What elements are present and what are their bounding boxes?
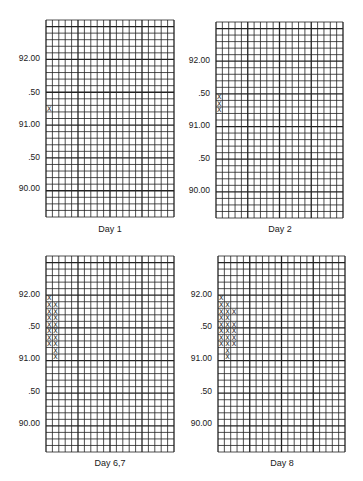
x-mark-icon: X: [219, 340, 224, 348]
x-mark-icon: X: [225, 353, 230, 361]
grid-0: X: [46, 20, 174, 217]
x-mark-icon: X: [47, 105, 52, 113]
x-mark-icon: X: [232, 308, 237, 316]
x-mark-icon: X: [217, 106, 222, 114]
grid-3: XXXXXXXXXXXXXXXXXXXXXX: [218, 256, 345, 452]
x-mark-icon: X: [232, 340, 237, 348]
x-mark-icon: X: [53, 353, 58, 361]
grid-1: XXX: [216, 22, 343, 218]
grid-layer: XXXXXXXXXXXXXXXXXXXXXXXXXXXXXXXXXXXXXXXX…: [0, 0, 363, 481]
grid-2: XXXXXXXXXXXXXXXXX: [46, 256, 174, 452]
x-mark-icon: X: [47, 340, 52, 348]
